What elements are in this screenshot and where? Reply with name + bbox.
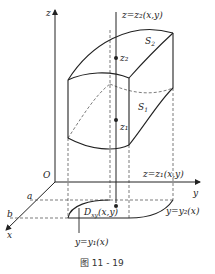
s2-label: S2 bbox=[145, 36, 155, 47]
bottom-front-curve bbox=[68, 138, 129, 149]
y2-curve-label: y=y₂(x) bbox=[165, 206, 200, 216]
point-z1 bbox=[114, 118, 118, 122]
point-z2 bbox=[114, 56, 118, 60]
z-axis-label: z bbox=[45, 8, 51, 18]
region-label: Dxy(x,y) bbox=[83, 207, 119, 219]
volume-integration-diagram: z y x O a b z=z₂(x,y) z=z₁(x,y) S2 S1 z₂… bbox=[0, 0, 215, 274]
y-axis-label: y bbox=[192, 188, 199, 198]
coordinate-axes bbox=[6, 10, 200, 230]
origin-label: O bbox=[43, 170, 51, 180]
a-label: a bbox=[27, 191, 32, 201]
projection-lines bbox=[10, 30, 173, 218]
x-axis-label: x bbox=[7, 230, 12, 240]
bottom-right-curve bbox=[129, 88, 173, 145]
x-axis bbox=[6, 182, 55, 230]
b-label: b bbox=[7, 209, 13, 219]
top-surface-left-curve bbox=[68, 73, 129, 80]
z1-label: z₁ bbox=[119, 122, 128, 132]
z2-label: z₂ bbox=[119, 53, 129, 63]
y1-curve-label: y=y₁(x) bbox=[74, 237, 109, 247]
figure-caption: 图 11 - 19 bbox=[80, 258, 124, 268]
top-surface-equation: z=z₂(x,y) bbox=[121, 10, 163, 20]
s1-label: S1 bbox=[138, 102, 148, 113]
bottom-surface-equation: z=z₁(x,y) bbox=[142, 169, 184, 179]
